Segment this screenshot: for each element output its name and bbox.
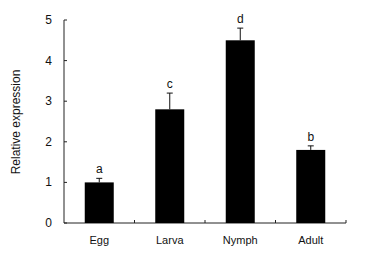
y-tick-label: 0 [45,216,52,230]
x-tick-label: Nymph [223,234,258,246]
x-tick-label: Egg [89,234,109,246]
y-axis-label: Relative expression [9,70,23,175]
significance-letter: b [307,130,314,144]
bar-chart: 012345 aEggcLarvadNymphbAdult Relative e… [0,0,370,260]
significance-letter: a [96,162,103,176]
y-tick-label: 5 [45,13,52,27]
bars: aEggcLarvadNymphbAdult [85,12,326,246]
significance-letter: c [167,77,173,91]
bar-nymph: dNymph [223,12,258,246]
y-tick-label: 4 [45,54,52,68]
x-tick-label: Adult [298,234,323,246]
bar-adult: bAdult [296,130,325,246]
y-tick-label: 2 [45,135,52,149]
y-axis: 012345 [45,13,67,230]
x-tick-label: Larva [156,234,184,246]
y-tick-label: 3 [45,94,52,108]
bar-egg: aEgg [85,162,114,246]
y-tick-label: 1 [45,175,52,189]
bar-larva: cLarva [155,77,184,246]
significance-letter: d [237,12,244,26]
